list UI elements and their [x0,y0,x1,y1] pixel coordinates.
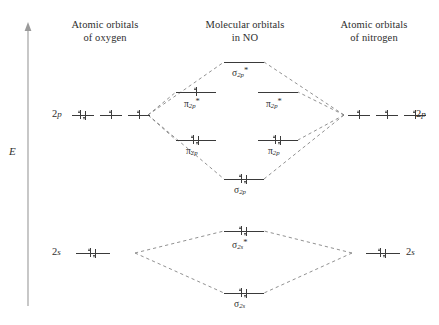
electron-arrow-head-down [244,295,246,298]
orbital-label-sigma-2s-star: σ2s* [232,237,247,250]
electron-arrow-head-down [83,117,85,120]
orbital-label-pi-2p-left: π2p [186,146,198,156]
orbital-bar [258,140,298,141]
electron-arrow-head-down [383,255,385,258]
orbital-label-pi-2p-star-left: π2p* [184,96,200,109]
ao-label-nitrogen-2p: 2p [416,108,426,119]
electron-arrow-head-up [191,135,193,138]
energy-axis-arrow [22,22,34,306]
orbital-bar [72,115,94,116]
ao-label-oxygen-2p: 2p [52,108,62,119]
orbital-bar [224,293,264,294]
electron-arrow-head-up [273,135,275,138]
orbital-bar [76,253,110,254]
heading-atomic-orbitals-nitrogen: Atomic orbitals of nitrogen [311,19,437,44]
electron-arrow-head-up [385,110,387,113]
electron-arrow-head-up [239,288,241,291]
orbital-label-sigma-2p: σ2p [234,185,246,195]
electron-arrow-head-up [109,110,111,113]
heading-molecular-orbitals-no: Molecular orbitals in NO [182,19,308,44]
electron-arrow-head-down [278,142,280,145]
orbital-bar [176,140,216,141]
electron-arrow-head-up [88,248,90,251]
electron-arrow-head-up [137,110,139,113]
ao-label-nitrogen-2s: 2s [406,246,415,257]
mo-energy-level-diagram: Atomic orbitals of oxygen Molecular orbi… [0,0,439,325]
electron-arrow-head-down [93,255,95,258]
orbital-label-sigma-2p-star: σ2p* [232,65,248,78]
orbital-bar [224,62,264,63]
electron-arrow-head-up [194,87,196,90]
orbital-bar [366,253,400,254]
electron-arrow-head-up [78,110,80,113]
orbital-label-sigma-2s: σ2s [234,299,245,309]
orbital-bar [224,231,264,232]
electron-arrow-head-down [244,181,246,184]
electron-arrow-head-up [239,226,241,229]
ao-label-oxygen-2s: 2s [52,246,61,257]
orbital-bar [224,179,264,180]
electron-arrow-head-down [196,142,198,145]
electron-arrow-head-up [378,248,380,251]
correlation-lines [0,0,439,325]
orbital-label-pi-2p-star-right: π2p* [266,96,282,109]
orbital-bar [258,92,298,93]
energy-axis-label: E [9,145,16,157]
electron-arrow-head-up [239,174,241,177]
orbital-label-pi-2p-right: π2p [268,146,280,156]
heading-atomic-orbitals-oxygen: Atomic orbitals of oxygen [42,19,168,44]
electron-arrow-head-up [357,110,359,113]
electron-arrow-head-down [244,233,246,236]
